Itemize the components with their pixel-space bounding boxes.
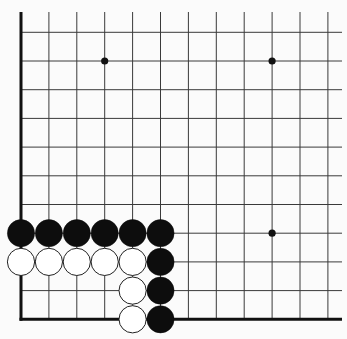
white-stone[interactable] [35,248,62,275]
black-stone[interactable] [147,248,174,275]
black-stone[interactable] [63,220,90,247]
black-stone[interactable] [147,220,174,247]
black-stone[interactable] [35,220,62,247]
go-board[interactable] [0,0,347,339]
white-stone[interactable] [119,248,146,275]
white-stone[interactable] [91,248,118,275]
board-edges [20,12,343,321]
black-stone[interactable] [91,220,118,247]
black-stone[interactable] [7,220,34,247]
white-stone[interactable] [119,277,146,304]
black-stone[interactable] [119,220,146,247]
black-stone[interactable] [147,306,174,333]
go-board-canvas[interactable] [0,0,347,339]
stones [7,220,174,333]
black-stone[interactable] [147,277,174,304]
white-stone[interactable] [7,248,34,275]
white-stone[interactable] [63,248,90,275]
star-point-icon [269,57,276,64]
star-point-icon [101,57,108,64]
white-stone[interactable] [119,306,146,333]
star-point-icon [269,230,276,237]
